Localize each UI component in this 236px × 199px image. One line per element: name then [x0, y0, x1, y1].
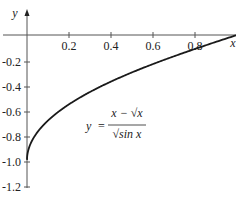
y-tick-label: -0.2 — [2, 55, 21, 69]
formula-lhs: y — [85, 119, 92, 133]
x-tick-label: 0.4 — [104, 39, 119, 53]
x-tick-label: 0.2 — [62, 39, 77, 53]
y-axis-arrow-icon — [25, 9, 30, 16]
formula-numerator: x − √x — [110, 106, 143, 120]
y-tick-label: -1.0 — [2, 155, 21, 169]
y-ticks: -0.2 -0.4 -0.6 -0.8 -1.0 -1.2 — [2, 55, 30, 194]
y-tick-label: -0.8 — [2, 130, 21, 144]
y-tick-label: -0.4 — [2, 80, 21, 94]
y-tick-label: -0.6 — [2, 105, 21, 119]
chart: 0.2 0.4 0.6 0.8 -0.2 -0.4 -0.6 -0.8 -1.0… — [0, 0, 236, 199]
formula-equals: = — [98, 119, 105, 133]
y-tick-label: -1.2 — [2, 180, 21, 194]
formula-denominator: √sin x — [113, 127, 143, 141]
x-tick-label: 0.6 — [146, 39, 161, 53]
formula-annotation: y = x − √x √sin x — [85, 106, 146, 141]
y-axis-label: y — [11, 6, 18, 20]
function-curve — [27, 35, 236, 160]
